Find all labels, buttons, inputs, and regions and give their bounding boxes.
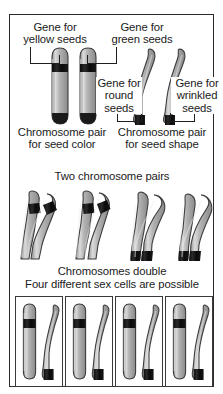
sex-cell-4-chromosome-color bbox=[172, 303, 187, 380]
caption-chromosomes-double: Chromosomes double bbox=[12, 265, 212, 277]
sex-cell-3-chromosome-shape bbox=[142, 303, 159, 380]
label-gene-green-seeds: Gene for green seeds bbox=[100, 21, 184, 46]
caption-chromosome-pair-seed-color: Chromosome pair for seed color bbox=[12, 126, 112, 151]
sex-cell-1-chromosome-color bbox=[22, 303, 37, 380]
sex-cell-1-chromosome-shape bbox=[42, 303, 59, 380]
sex-cell-3-chromosome-color bbox=[122, 303, 137, 380]
sex-cell-2-chromosome-color bbox=[72, 303, 87, 380]
label-gene-wrinkled-seeds: Gene for wrinkled seeds bbox=[171, 77, 223, 114]
caption-chromosome-pair-seed-shape: Chromosome pair for seed shape bbox=[112, 126, 212, 151]
caption-four-sex-cells: Four different sex cells are possible bbox=[10, 278, 214, 290]
doubled-pair-shape-2 bbox=[175, 189, 221, 261]
genetics-diagram: Gene for yellow seeds Gene for green see… bbox=[0, 0, 223, 394]
doubled-pair-color-1 bbox=[19, 189, 65, 261]
sex-cell-2-chromosome-shape bbox=[92, 303, 109, 380]
label-gene-round-seeds: Gene for round seeds bbox=[96, 77, 142, 114]
sex-cell-4-chromosome-shape bbox=[192, 303, 209, 380]
label-gene-yellow-seeds: Gene for yellow seeds bbox=[14, 21, 96, 46]
caption-two-chromosome-pairs: Two chromosome pairs bbox=[12, 170, 212, 182]
doubled-pair-color-2 bbox=[73, 189, 119, 261]
doubled-pair-shape-1 bbox=[128, 189, 174, 261]
